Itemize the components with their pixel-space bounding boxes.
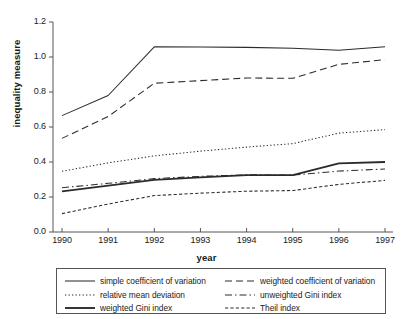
legend-label: relative mean deviation xyxy=(100,290,185,300)
legend-line-swatch xyxy=(225,289,255,301)
legend-label: weighted coefficient of variation xyxy=(260,276,375,286)
legend-line-swatch xyxy=(65,275,95,287)
legend-item[interactable]: weighted coefficient of variation xyxy=(225,273,375,288)
legend-line-swatch xyxy=(65,302,95,314)
series-line-1 xyxy=(62,60,385,139)
legend-line-swatch xyxy=(65,289,95,301)
legend-label: simple coefficient of variation xyxy=(100,276,206,286)
chart-legend: simple coefficient of variationweighted … xyxy=(56,268,386,314)
legend-item[interactable]: Theil index xyxy=(225,300,300,315)
legend-line-swatch xyxy=(225,275,255,287)
legend-item[interactable]: weighted Gini index xyxy=(65,300,172,315)
series-line-2 xyxy=(62,130,385,172)
inequality-measure-line-chart: inequality measure year 0.00.20.40.60.81… xyxy=(0,0,413,319)
series-line-0 xyxy=(62,47,385,116)
series-line-4 xyxy=(62,162,385,191)
legend-label: unweighted Gini index xyxy=(260,290,341,300)
legend-label: weighted Gini index xyxy=(100,303,172,313)
legend-line-swatch xyxy=(225,302,255,314)
legend-item[interactable]: simple coefficient of variation xyxy=(65,273,206,288)
legend-label: Theil index xyxy=(260,303,300,313)
